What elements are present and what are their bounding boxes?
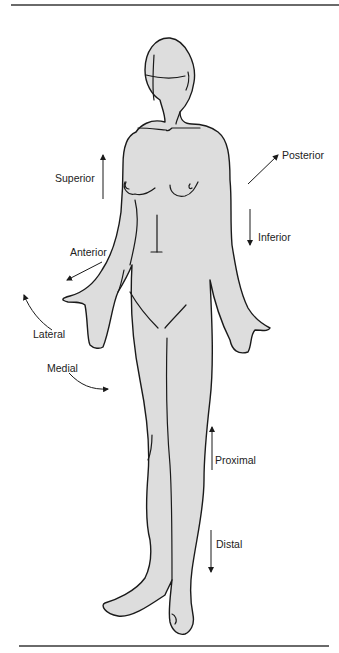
label-proximal: Proximal <box>215 455 256 466</box>
label-anterior: Anterior <box>70 247 107 258</box>
posterior-arrow <box>248 155 278 184</box>
bottom-rule <box>19 645 329 647</box>
label-lateral: Lateral <box>33 329 65 340</box>
medial-arrow <box>69 373 108 389</box>
label-distal: Distal <box>216 539 242 550</box>
label-posterior: Posterior <box>282 150 324 161</box>
label-superior: Superior <box>55 173 95 184</box>
lateral-arrow <box>24 295 52 330</box>
label-inferior: Inferior <box>258 232 291 243</box>
human-figure-illustration <box>0 0 339 653</box>
label-medial: Medial <box>47 363 78 374</box>
